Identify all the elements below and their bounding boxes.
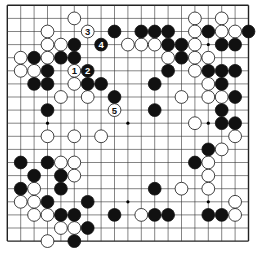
white-stone[interactable]	[68, 169, 81, 182]
white-stone[interactable]	[41, 38, 54, 51]
white-stone[interactable]	[14, 195, 27, 208]
black-stone[interactable]	[148, 104, 161, 117]
white-stone[interactable]	[41, 235, 54, 248]
black-stone[interactable]	[108, 25, 121, 38]
black-stone[interactable]	[55, 182, 68, 195]
black-stone[interactable]	[175, 38, 188, 51]
black-stone[interactable]	[202, 25, 215, 38]
black-stone[interactable]	[162, 38, 175, 51]
black-stone[interactable]	[81, 195, 94, 208]
black-stone[interactable]	[55, 169, 68, 182]
white-stone[interactable]	[68, 222, 81, 235]
black-stone[interactable]	[229, 64, 242, 77]
white-stone[interactable]	[55, 156, 68, 169]
white-stone[interactable]	[229, 130, 242, 143]
black-stone[interactable]	[14, 156, 27, 169]
white-stone[interactable]	[229, 25, 242, 38]
white-stone[interactable]	[68, 130, 81, 143]
black-stone[interactable]	[175, 51, 188, 64]
black-stone[interactable]	[108, 91, 121, 104]
white-stone[interactable]	[28, 64, 41, 77]
white-stone[interactable]	[189, 38, 202, 51]
white-stone[interactable]	[28, 195, 41, 208]
black-stone[interactable]	[41, 64, 54, 77]
white-stone[interactable]	[175, 182, 188, 195]
white-stone[interactable]	[68, 156, 81, 169]
white-stone[interactable]	[68, 12, 81, 25]
black-stone[interactable]	[148, 78, 161, 91]
white-stone[interactable]	[55, 222, 68, 235]
white-stone[interactable]	[41, 209, 54, 222]
white-stone[interactable]	[215, 25, 228, 38]
white-stone[interactable]	[189, 51, 202, 64]
white-stone[interactable]	[229, 209, 242, 222]
go-board[interactable]: 12345	[0, 0, 258, 261]
white-stone[interactable]	[229, 195, 242, 208]
black-stone[interactable]	[108, 209, 121, 222]
white-stone[interactable]	[202, 51, 215, 64]
black-stone[interactable]	[148, 182, 161, 195]
white-stone[interactable]	[81, 91, 94, 104]
white-stone[interactable]	[175, 91, 188, 104]
white-stone[interactable]	[135, 38, 148, 51]
black-stone[interactable]	[202, 143, 215, 156]
white-stone[interactable]	[41, 130, 54, 143]
white-stone[interactable]	[122, 38, 135, 51]
black-stone[interactable]	[55, 209, 68, 222]
white-stone[interactable]	[55, 91, 68, 104]
black-stone[interactable]	[148, 25, 161, 38]
black-stone[interactable]	[95, 78, 108, 91]
black-stone[interactable]	[68, 235, 81, 248]
white-stone[interactable]	[202, 156, 215, 169]
white-stone[interactable]	[14, 64, 27, 77]
black-stone[interactable]	[229, 117, 242, 130]
white-stone[interactable]	[215, 91, 228, 104]
black-stone[interactable]	[41, 156, 54, 169]
white-stone[interactable]	[215, 12, 228, 25]
black-stone[interactable]	[202, 64, 215, 77]
white-stone[interactable]	[14, 51, 27, 64]
black-stone[interactable]	[215, 78, 228, 91]
black-stone[interactable]	[215, 64, 228, 77]
white-stone[interactable]	[148, 38, 161, 51]
black-stone[interactable]	[162, 25, 175, 38]
white-stone[interactable]	[189, 64, 202, 77]
black-stone[interactable]	[215, 209, 228, 222]
white-stone[interactable]	[41, 51, 54, 64]
white-stone[interactable]	[28, 209, 41, 222]
black-stone[interactable]	[81, 78, 94, 91]
white-stone[interactable]	[202, 78, 215, 91]
white-stone[interactable]	[95, 130, 108, 143]
black-stone[interactable]	[229, 91, 242, 104]
white-stone[interactable]	[162, 51, 175, 64]
white-stone[interactable]	[202, 169, 215, 182]
white-stone[interactable]	[41, 25, 54, 38]
black-stone[interactable]	[68, 51, 81, 64]
white-stone[interactable]	[135, 209, 148, 222]
white-stone[interactable]	[189, 12, 202, 25]
black-stone[interactable]	[41, 78, 54, 91]
black-stone[interactable]	[215, 38, 228, 51]
white-stone[interactable]	[28, 182, 41, 195]
black-stone[interactable]	[41, 195, 54, 208]
black-stone[interactable]	[68, 209, 81, 222]
black-stone[interactable]	[229, 38, 242, 51]
black-stone[interactable]	[28, 78, 41, 91]
black-stone[interactable]	[68, 38, 81, 51]
black-stone[interactable]	[28, 169, 41, 182]
black-stone[interactable]	[28, 51, 41, 64]
black-stone[interactable]	[81, 222, 94, 235]
white-stone[interactable]	[55, 38, 68, 51]
black-stone[interactable]	[14, 182, 27, 195]
white-stone[interactable]	[68, 78, 81, 91]
black-stone[interactable]	[215, 117, 228, 130]
white-stone[interactable]	[189, 25, 202, 38]
black-stone[interactable]	[41, 104, 54, 117]
black-stone[interactable]	[148, 209, 161, 222]
white-stone[interactable]	[202, 182, 215, 195]
black-stone[interactable]	[162, 209, 175, 222]
black-stone[interactable]	[242, 25, 255, 38]
white-stone[interactable]	[202, 91, 215, 104]
black-stone[interactable]	[55, 51, 68, 64]
white-stone[interactable]	[189, 117, 202, 130]
